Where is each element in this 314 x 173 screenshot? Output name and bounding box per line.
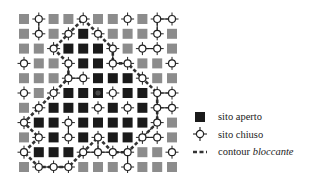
blocking-contour-line	[24, 19, 157, 167]
open-site	[34, 118, 44, 128]
closed-site-icon	[21, 60, 28, 67]
gray-site	[34, 88, 44, 98]
gray-site	[137, 58, 147, 68]
closed-site-icon	[139, 134, 146, 141]
open-site	[137, 118, 147, 128]
open-site	[137, 88, 147, 98]
closed-site-icon	[154, 119, 161, 126]
gray-site	[167, 44, 177, 54]
legend-label-open: sito aperto	[218, 111, 262, 122]
open-site	[78, 132, 88, 142]
open-site	[123, 73, 133, 83]
gray-site	[137, 14, 147, 24]
gray-site	[93, 14, 103, 24]
closed-site-icon	[50, 90, 57, 97]
dashed-line-icon	[190, 145, 210, 159]
closed-site-icon	[154, 134, 161, 141]
gray-site	[167, 73, 177, 83]
closed-site-icon	[65, 134, 72, 141]
open-site	[63, 44, 73, 54]
open-site	[93, 58, 103, 68]
open-site	[108, 132, 118, 142]
closed-site-icon	[109, 90, 116, 97]
closed-site-icon	[124, 149, 131, 156]
gray-site	[123, 44, 133, 54]
legend-item-closed: sito chiuso	[190, 126, 294, 144]
open-site	[123, 118, 133, 128]
gray-site	[19, 132, 29, 142]
gray-site	[93, 162, 103, 172]
closed-site-icon	[50, 164, 57, 171]
open-site	[108, 118, 118, 128]
gray-site	[152, 162, 162, 172]
open-site	[63, 147, 73, 157]
gray-site	[167, 29, 177, 39]
gray-site	[34, 44, 44, 54]
open-site	[93, 73, 103, 83]
gray-site	[34, 73, 44, 83]
gray-site	[152, 58, 162, 68]
open-site	[108, 73, 118, 83]
closed-site-icon	[95, 30, 102, 37]
open-site	[93, 118, 103, 128]
gray-site	[167, 118, 177, 128]
open-site	[63, 88, 73, 98]
closed-site-icon	[80, 16, 87, 23]
blocking-contour	[24, 19, 157, 167]
open-site	[78, 103, 88, 113]
closed-site-icon	[35, 104, 42, 111]
closed-site-icon	[169, 16, 176, 23]
closed-site-icon	[21, 90, 28, 97]
gray-site	[34, 58, 44, 68]
gray-site	[19, 73, 29, 83]
closed-site-icon	[35, 134, 42, 141]
gray-site	[137, 147, 147, 157]
gray-site	[167, 132, 177, 142]
open-site	[78, 44, 88, 54]
legend-item-open: sito aperto	[190, 108, 294, 126]
open-site-center-marker	[96, 91, 101, 96]
open-site	[93, 44, 103, 54]
gray-site	[108, 14, 118, 24]
closed-site-icon	[190, 127, 210, 141]
closed-site-icon	[109, 45, 116, 52]
closed-site-icon	[65, 164, 72, 171]
gray-site	[19, 29, 29, 39]
closed-site-icon	[21, 119, 28, 126]
gray-site	[19, 162, 29, 172]
gray-site	[19, 44, 29, 54]
closed-site-icon	[95, 149, 102, 156]
closed-site-icon	[35, 30, 42, 37]
open-site	[49, 118, 59, 128]
open-site	[78, 88, 88, 98]
gray-site	[49, 73, 59, 83]
open-site	[63, 103, 73, 113]
gray-site	[123, 29, 133, 39]
open-site	[49, 147, 59, 157]
closed-site-icon	[65, 119, 72, 126]
gray-site	[49, 14, 59, 24]
closed-site-icon	[35, 164, 42, 171]
closed-site-icon	[65, 30, 72, 37]
gray-site	[49, 58, 59, 68]
closed-site-icon	[169, 149, 176, 156]
closed-site-icon	[169, 104, 176, 111]
gray-site	[19, 103, 29, 113]
open-site	[123, 88, 133, 98]
closed-site-icon	[109, 60, 116, 67]
closed-site-icon	[169, 60, 176, 67]
gray-site	[108, 162, 118, 172]
gray-site	[108, 29, 118, 39]
closed-site-icon	[154, 90, 161, 97]
legend-label-italic: bloccante	[253, 146, 294, 157]
closed-site-icon	[124, 16, 131, 23]
closed-site-icon	[50, 45, 57, 52]
open-site	[78, 58, 88, 68]
open-site-icon	[190, 110, 210, 124]
closed-site-icon	[154, 104, 161, 111]
closed-site-icon	[35, 16, 42, 23]
gray-site	[152, 73, 162, 83]
closed-site-icon	[154, 30, 161, 37]
open-site	[123, 132, 133, 142]
gray-site	[19, 14, 29, 24]
